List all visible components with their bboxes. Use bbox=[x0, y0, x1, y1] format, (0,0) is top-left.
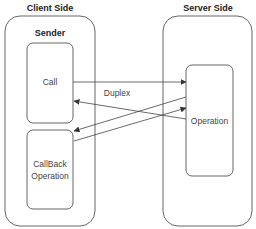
server-side-group: Server Side Operation bbox=[163, 3, 252, 226]
callback-operation-label-line1: CallBack bbox=[33, 159, 67, 169]
duplex-diagram: Client Side Sender Call CallBack Operati… bbox=[0, 0, 256, 229]
duplex-label: Duplex bbox=[104, 88, 131, 98]
callback-operation-node bbox=[27, 130, 73, 209]
operation-node-label: Operation bbox=[191, 116, 229, 126]
sender-label: Sender bbox=[35, 28, 66, 38]
call-node-label: Call bbox=[43, 77, 58, 87]
server-side-title: Server Side bbox=[183, 3, 233, 13]
client-side-title: Client Side bbox=[27, 3, 74, 13]
callback-operation-label-line2: Operation bbox=[31, 171, 69, 181]
client-side-group: Client Side Sender Call CallBack Operati… bbox=[5, 3, 95, 226]
